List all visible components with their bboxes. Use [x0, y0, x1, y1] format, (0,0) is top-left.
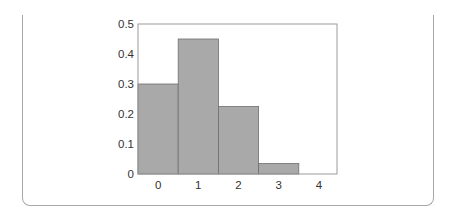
- y-tick-label: 0.2: [118, 108, 134, 120]
- y-tick-label: 0.1: [118, 138, 134, 150]
- x-tick-label: 1: [195, 179, 201, 191]
- bar-2: [218, 107, 258, 175]
- bar-3: [259, 164, 299, 175]
- bar-0: [138, 84, 178, 174]
- x-tick-label: 2: [235, 179, 241, 191]
- y-tick-label: 0.5: [118, 18, 134, 30]
- x-tick-label: 3: [275, 179, 281, 191]
- x-tick-label: 0: [155, 179, 161, 191]
- y-tick-label: 0.3: [118, 78, 134, 90]
- x-axis-ticks: 01234: [155, 179, 323, 191]
- y-axis-ticks: 00.10.20.30.40.5: [118, 18, 135, 180]
- y-tick-label: 0: [128, 168, 134, 180]
- x-tick-label: 4: [316, 179, 323, 191]
- histogram-chart: 00.10.20.30.40.5 01234: [0, 0, 456, 219]
- bar-1: [178, 39, 218, 174]
- bars-group: [138, 39, 299, 174]
- y-tick-label: 0.4: [118, 48, 135, 60]
